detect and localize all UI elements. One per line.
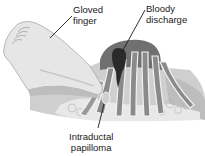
papilloma-lesion: [102, 92, 110, 104]
label-bloody-discharge: Bloody discharge: [146, 3, 187, 25]
label-bloody-discharge-line1: Bloody: [146, 3, 187, 14]
label-gloved-finger-line1: Gloved: [73, 4, 103, 15]
label-intraductal-papilloma-line2: papilloma: [69, 142, 113, 153]
label-intraductal-papilloma: Intraductal papilloma: [69, 131, 113, 153]
leader-line-finger: [50, 16, 72, 38]
label-gloved-finger-line2: finger: [73, 15, 103, 26]
label-gloved-finger: Gloved finger: [73, 4, 103, 26]
label-intraductal-papilloma-line1: Intraductal: [69, 131, 113, 142]
gloved-finger: [4, 21, 103, 98]
label-bloody-discharge-line2: discharge: [146, 14, 187, 25]
